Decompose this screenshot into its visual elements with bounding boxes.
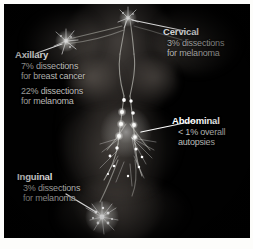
- inguinal-node-cluster: [85, 200, 119, 234]
- annotation-axillary-line-3: 22% dissections: [21, 86, 85, 96]
- annotation-axillary-line-4: for melanoma: [21, 96, 85, 106]
- annotation-inguinal: Inguinal 3% dissections for melanoma: [17, 171, 80, 204]
- cervical-node-cluster: [118, 7, 138, 28]
- annotation-abdominal-title: Abdominal: [172, 115, 225, 126]
- annotation-cervical-title: Cervical: [163, 26, 224, 37]
- annotation-cervical: Cervical 3% dissections for melanoma: [163, 26, 224, 59]
- annotation-abdominal-line-2: autopsies: [178, 137, 225, 147]
- annotation-inguinal-line-2: for melanoma: [23, 193, 80, 203]
- annotation-axillary-title: Axillary: [15, 49, 85, 60]
- lymph-node-figure: Cervical 3% dissections for melanoma Axi…: [0, 0, 253, 249]
- annotation-inguinal-title: Inguinal: [17, 171, 80, 182]
- annotation-axillary-line-1: 7% dissections: [21, 61, 85, 71]
- anatomical-photo-plate: Cervical 3% dissections for melanoma Axi…: [4, 4, 250, 238]
- annotation-abdominal: Abdominal < 1% overall autopsies: [172, 115, 225, 148]
- annotation-inguinal-line-1: 3% dissections: [23, 183, 80, 193]
- annotation-axillary: Axillary 7% dissections for breast cance…: [15, 49, 85, 107]
- annotation-cervical-line-2: for melanoma: [167, 48, 224, 58]
- annotation-abdominal-line-1: < 1% overall: [178, 127, 225, 137]
- annotation-axillary-line-2: for breast cancer: [21, 71, 85, 81]
- annotation-cervical-line-1: 3% dissections: [167, 38, 224, 48]
